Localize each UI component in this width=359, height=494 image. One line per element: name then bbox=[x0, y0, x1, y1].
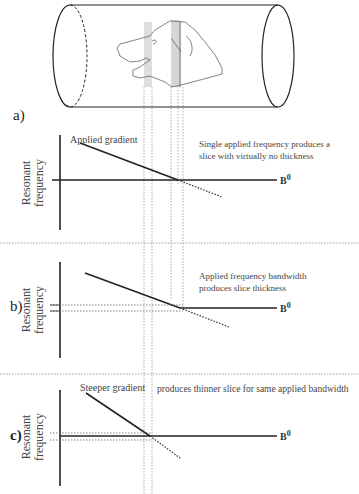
note-c: produces thinner slice for same applied … bbox=[157, 383, 349, 395]
section-c-graph bbox=[50, 390, 277, 486]
note-b: Applied frequency bandwidth produces sli… bbox=[199, 270, 306, 294]
section-a-label: a) bbox=[13, 107, 25, 124]
note-a-line2: slice with virtually no thickness bbox=[199, 150, 330, 162]
diagram-canvas bbox=[0, 0, 359, 494]
b0-label-a: B0 bbox=[280, 173, 291, 186]
gradient-label-c: Steeper gradient bbox=[80, 382, 145, 394]
b0-label-b: B0 bbox=[280, 301, 291, 314]
slice-band-thick bbox=[171, 20, 179, 87]
b0-label-c: B0 bbox=[280, 429, 291, 442]
y-axis-label-b: Resonant frequency bbox=[20, 275, 46, 345]
y-axis-line2: frequency bbox=[33, 275, 46, 345]
y-axis-line2: frequency bbox=[33, 148, 46, 218]
note-b-line1: Applied frequency bandwidth bbox=[199, 270, 306, 282]
y-axis-label-c: Resonant frequency bbox=[20, 402, 46, 472]
note-a-line1: Single applied frequency produces a bbox=[199, 138, 330, 150]
y-axis-line2: frequency bbox=[33, 402, 46, 472]
note-a: Single applied frequency produces a slic… bbox=[199, 138, 330, 162]
note-b-line2: produces slice thickness bbox=[199, 282, 306, 294]
dog-head-outline bbox=[117, 21, 222, 87]
y-axis-label-a: Resonant frequency bbox=[20, 148, 46, 218]
gradient-label-a: Applied gradient bbox=[70, 134, 137, 146]
